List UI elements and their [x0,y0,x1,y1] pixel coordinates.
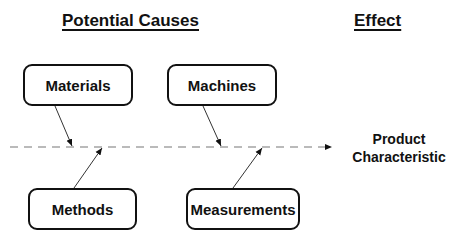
effect-label-line1: Product [339,130,459,148]
effect-label: Product Characteristic [339,130,459,166]
effect-label-line2: Characteristic [339,148,459,166]
materials-arrow [55,106,72,146]
cause-box-machines: Machines [167,64,277,106]
cause-box-materials: Materials [23,64,133,106]
machines-arrow [203,106,221,146]
methods-arrow [74,148,102,188]
measurements-arrow [233,148,262,188]
cause-box-methods: Methods [28,188,137,230]
cause-box-measurements: Measurements [186,188,300,230]
